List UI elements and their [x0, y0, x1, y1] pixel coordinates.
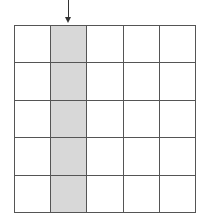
grid-5x5 [14, 25, 196, 213]
grid-cell [160, 138, 196, 175]
grid-cell [124, 63, 160, 100]
grid-cell [160, 26, 196, 63]
pointer-arrow-shaft [68, 0, 69, 18]
grid-cell [51, 138, 87, 175]
pointer-arrow-head-icon [65, 17, 71, 23]
grid-cell [124, 26, 160, 63]
grid-cell [51, 63, 87, 100]
grid-cell [15, 176, 51, 213]
grid-cell [51, 26, 87, 63]
grid-cell [15, 101, 51, 138]
grid-cell [51, 101, 87, 138]
grid-cell [15, 63, 51, 100]
grid-cell [87, 138, 123, 175]
grid-cell [124, 101, 160, 138]
grid-cell [124, 176, 160, 213]
grid-cell [124, 138, 160, 175]
grid-cell [160, 101, 196, 138]
grid-cell [87, 26, 123, 63]
grid-cell [87, 63, 123, 100]
grid-cell [15, 26, 51, 63]
grid-cell [160, 63, 196, 100]
grid-cell [160, 176, 196, 213]
grid-cell [87, 101, 123, 138]
grid-cell [15, 138, 51, 175]
grid-cell [87, 176, 123, 213]
grid-cell [51, 176, 87, 213]
